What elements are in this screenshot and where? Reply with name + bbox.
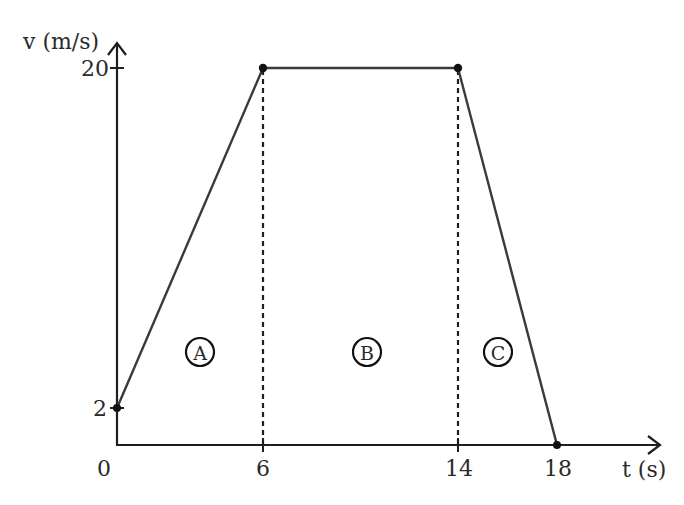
region-c-label: C (491, 342, 506, 364)
region-b-marker: B (353, 338, 381, 366)
data-point-t14 (454, 64, 462, 72)
velocity-line (117, 68, 557, 445)
x-tick-label-14: 14 (445, 456, 473, 481)
region-a-marker: A (186, 338, 214, 366)
x-tick-label-6: 6 (256, 456, 270, 481)
y-tick-label-2: 2 (93, 396, 107, 421)
y-tick-label-20: 20 (81, 56, 109, 81)
x-tick-label-0: 0 (97, 456, 111, 481)
region-a-label: A (192, 342, 207, 364)
data-point-t6 (259, 64, 267, 72)
region-b-label: B (360, 342, 374, 364)
y-axis-label: v (m/s) (22, 29, 99, 54)
x-axis-label: t (s) (622, 457, 666, 482)
data-point-t18 (553, 441, 561, 449)
x-tick-label-18: 18 (544, 456, 572, 481)
data-point-t0 (113, 404, 121, 412)
region-c-marker: C (484, 338, 512, 366)
velocity-time-chart: v (m/s) t (s) 20 2 0 6 14 18 A B C (0, 0, 684, 505)
